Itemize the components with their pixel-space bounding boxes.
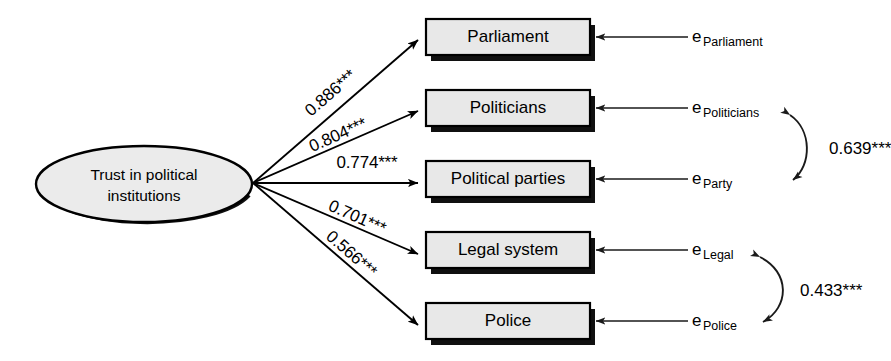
error-term-party: e Party — [692, 169, 733, 191]
box-label-parliament: Parliament — [467, 27, 549, 46]
error-term-police: e Police — [692, 311, 737, 333]
error-label-politicians-base: e — [692, 98, 701, 117]
correlation-curve-legal-police — [760, 257, 783, 322]
diagram-canvas: Trust in political institutions 0.886***… — [0, 0, 891, 361]
box-label-political-parties: Political parties — [451, 169, 565, 188]
box-label-politicians: Politicians — [470, 98, 547, 117]
loading-coefficient-labels: 0.886*** 0.804*** 0.774*** 0.701*** 0.56… — [301, 65, 398, 281]
indicator-box-political-parties: Political parties — [426, 161, 595, 203]
error-term-parliament: e Parliament — [692, 27, 763, 49]
correlation-politicians-party: 0.639*** — [790, 115, 891, 180]
indicator-box-police: Police — [426, 303, 595, 345]
latent-ellipse — [36, 146, 252, 222]
error-term-politicians: e Politicians — [692, 98, 759, 120]
correlation-legal-police: 0.433*** — [760, 257, 863, 322]
box-label-legal-system: Legal system — [458, 240, 558, 259]
indicator-box-parliament: Parliament — [426, 19, 595, 61]
latent-label-line1: Trust in political — [90, 166, 197, 183]
indicator-box-politicians: Politicians — [426, 90, 595, 132]
error-label-parliament-base: e — [692, 27, 701, 46]
box-label-police: Police — [485, 311, 531, 330]
latent-variable-trust: Trust in political institutions — [36, 146, 252, 222]
coefficient-label-political-parties: 0.774*** — [337, 153, 398, 172]
error-label-police-sub: Police — [703, 319, 737, 333]
correlation-label-politicians-party: 0.639*** — [829, 139, 891, 158]
error-label-party-base: e — [692, 169, 701, 188]
error-label-legal-base: e — [692, 240, 701, 259]
error-label-police-base: e — [692, 311, 701, 330]
error-label-party-sub: Party — [703, 177, 733, 191]
coefficient-label-politicians: 0.804*** — [306, 114, 370, 156]
error-term-legal: e Legal — [692, 240, 734, 262]
error-label-parliament-sub: Parliament — [703, 35, 763, 49]
path-arrow-politicians — [253, 111, 418, 183]
error-label-politicians-sub: Politicians — [703, 106, 759, 120]
coefficient-label-parliament: 0.886*** — [301, 65, 360, 120]
correlation-curve-politicians-party — [790, 115, 807, 180]
error-term-arrows — [596, 37, 688, 321]
sem-path-diagram: Trust in political institutions 0.886***… — [0, 0, 891, 361]
latent-label-line2: institutions — [107, 187, 180, 204]
error-label-legal-sub: Legal — [703, 248, 734, 262]
correlation-label-legal-police: 0.433*** — [800, 281, 863, 300]
indicator-box-legal-system: Legal system — [426, 232, 595, 274]
